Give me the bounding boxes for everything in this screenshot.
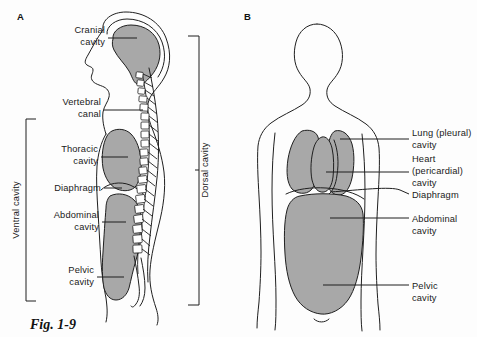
panel-b-left-arm-inner [272,133,276,330]
label-b-heart-line1: Heart [412,154,436,164]
figure-caption: Fig. 1-9 [29,317,76,332]
label-vertebral-canal-line1: Vertebral [62,97,101,107]
label-b-abdominal-line1: Abdominal [412,214,457,224]
label-b-diaphragm: Diaphragm [412,190,459,200]
ventral-cavity-bracket [26,119,36,301]
thoracic-cavity-shape [102,129,141,190]
panel-b-group: B Lung (pleural) cavity Heart (pericardi… [244,11,471,331]
label-pelvic-cavity-line2: cavity [69,277,94,287]
label-b-heart-line3: cavity [412,178,437,188]
label-cranial-cavity-line2: cavity [80,37,105,47]
label-b-pelvic-line2: cavity [412,293,437,303]
panel-b-abdominopelvic-cavity-shape [284,194,363,314]
figure-1-9: A Cranial cavity Vertebral canal Thoraci… [0,0,477,337]
label-b-heart-line2: (pericardial) [412,166,463,176]
anatomy-figure-canvas: A Cranial cavity Vertebral canal Thoraci… [0,0,477,337]
label-b-abdominal-line2: cavity [412,226,437,236]
label-pelvic-cavity-line1: Pelvic [68,265,94,275]
label-b-lung-line1: Lung (pleural) [412,128,471,138]
panel-b-letter: B [244,11,251,22]
heart-pericardial-cavity-shape [311,137,334,192]
label-diaphragm: Diaphragm [54,183,101,193]
label-dorsal-cavity: Dorsal cavity [200,142,210,197]
panel-b-pubic-notch [314,319,329,322]
label-b-lung-line2: cavity [412,140,437,150]
panel-a-group: A Cranial cavity Vertebral canal Thoraci… [11,11,210,325]
label-ventral-cavity: Ventral cavity [11,181,21,239]
label-thoracic-cavity-line1: Thoracic [61,144,98,154]
panel-a-letter: A [17,11,24,22]
label-cranial-cavity-line1: Cranial [74,25,105,35]
label-abdominal-cavity-line1: Abdominal [54,210,99,220]
label-vertebral-canal-line2: canal [78,109,101,119]
panel-a-coccyx [140,258,145,306]
label-abdominal-cavity-line2: cavity [74,222,99,232]
label-b-pelvic-line1: Pelvic [412,281,438,291]
label-thoracic-cavity-line2: cavity [73,156,98,166]
